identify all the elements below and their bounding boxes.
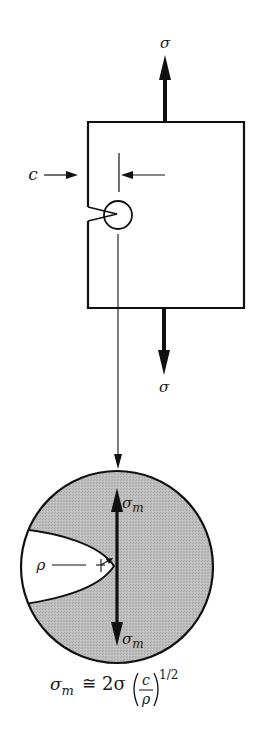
crack-length-left-arrow xyxy=(44,171,78,179)
svg-text:1/2: 1/2 xyxy=(159,668,178,682)
svg-text:≅: ≅ xyxy=(82,673,96,693)
crack-stress-diagram: σ c σ ρ xyxy=(0,0,261,741)
tip-radius-label: ρ xyxy=(36,556,46,574)
edge-crack xyxy=(88,207,117,221)
applied-stress-top-arrow xyxy=(159,55,171,122)
svg-text:c: c xyxy=(142,672,150,688)
crack-length-label: c xyxy=(28,164,38,184)
magnification-leader-arrow xyxy=(114,234,122,469)
crack-tip-highlight-circle xyxy=(104,201,132,229)
applied-stress-bottom-arrow xyxy=(158,308,170,375)
crack-length-right-arrow xyxy=(121,171,165,179)
applied-stress-top-label: σ xyxy=(160,34,171,52)
applied-stress-bottom-label: σ xyxy=(159,378,170,396)
svg-text:σm: σm xyxy=(50,674,74,698)
stress-concentration-formula: σm ≅ 2σ c ρ 1/2 xyxy=(50,668,178,707)
svg-text:ρ: ρ xyxy=(141,691,151,707)
svg-text:2σ: 2σ xyxy=(102,673,126,694)
